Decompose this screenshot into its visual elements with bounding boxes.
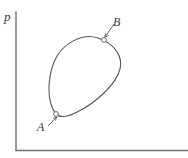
cycle-diagram-svg (0, 0, 188, 158)
figure-canvas: p A B (0, 0, 188, 158)
point-marker-a (54, 112, 59, 117)
point-marker-b (102, 38, 107, 43)
leader-line-a-group (48, 117, 57, 126)
point-label-b: B (113, 16, 120, 28)
y-axis-label: p (4, 10, 11, 23)
point-label-a: A (37, 121, 44, 133)
cycle-loop-curve (49, 37, 121, 117)
leader-line-a (48, 117, 57, 126)
